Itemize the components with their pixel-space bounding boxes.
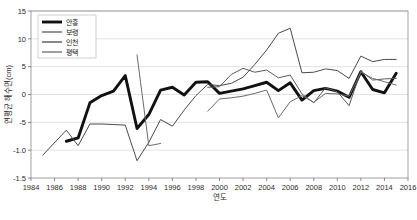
y-axis-tick-label: -1.0: [13, 146, 26, 155]
x-axis-tick-label: 1996: [164, 183, 181, 192]
y-axis-tick-label: 5: [22, 62, 26, 71]
x-axis-tick-label: 2010: [329, 183, 346, 192]
x-axis-tick-label: 2000: [211, 183, 228, 192]
x-axis-tick-label: 2004: [258, 183, 275, 192]
y-axis-tick-label: 0: [22, 90, 26, 99]
x-axis-tick-label: 2008: [305, 183, 322, 192]
series-line-안흥: [66, 72, 396, 142]
legend-label-인천: 인천: [66, 38, 78, 46]
sea-level-line-chart: -1.5-1.0-5051015198419861988199019921994…: [0, 0, 417, 220]
legend-label-평택: 평택: [66, 48, 78, 57]
x-axis-tick-label: 2014: [376, 183, 393, 192]
x-axis-tick-label: 1984: [23, 183, 40, 192]
y-axis-tick-label: -5: [19, 118, 26, 127]
x-axis-tick-label: 1990: [93, 183, 110, 192]
x-axis-tick-label: 2002: [235, 183, 252, 192]
y-axis-title: 연평균 해수면(cm): [3, 64, 13, 124]
x-axis-tick-label: 2016: [400, 183, 417, 192]
x-axis-tick-label: 1988: [70, 183, 87, 192]
x-axis-tick-label: 1992: [117, 183, 134, 192]
y-axis-tick-label: 15: [18, 7, 26, 16]
legend-label-안흥: 안흥: [66, 18, 79, 26]
x-axis-title: 연도: [213, 193, 227, 202]
x-axis-tick-label: 2012: [353, 183, 370, 192]
x-axis-tick-label: 1986: [46, 183, 63, 192]
chart-svg: -1.5-1.0-5051015198419861988199019921994…: [0, 0, 417, 220]
x-axis-tick-label: 2006: [282, 183, 299, 192]
legend-label-보령: 보령: [66, 29, 78, 36]
x-axis-tick-label: 1994: [140, 183, 157, 192]
y-axis-tick-label: -1.5: [13, 174, 26, 183]
x-axis-tick-label: 1998: [188, 183, 205, 192]
series-line-평택-2: [208, 72, 397, 118]
y-axis-tick-label: 10: [18, 35, 26, 44]
